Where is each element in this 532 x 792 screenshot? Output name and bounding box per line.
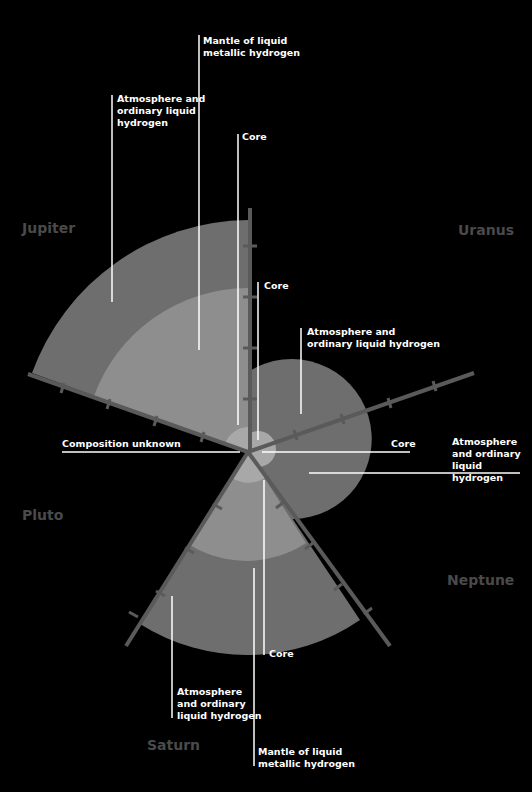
jupiter-sector xyxy=(32,220,248,452)
planet-pluto: Pluto xyxy=(22,507,63,523)
label-saturn-atmosphere: Atmosphere and ordinary liquid hydrogen xyxy=(177,686,261,722)
label-jupiter-core: Core xyxy=(242,131,267,143)
label-uranus-atmosphere: Atmosphere and ordinary liquid hydrogen xyxy=(307,326,440,350)
label-neptune-atmosphere: Atmosphere and ordinary liquid hydrogen xyxy=(452,436,532,484)
planet-neptune: Neptune xyxy=(447,572,514,588)
label-uranus-core: Core xyxy=(264,280,289,292)
label-pluto-composition: Composition unknown xyxy=(62,438,181,450)
label-jupiter-mantle: Mantle of liquid metallic hydrogen xyxy=(203,35,300,59)
planet-interiors-diagram xyxy=(0,0,532,792)
planet-saturn: Saturn xyxy=(147,737,200,753)
label-saturn-core: Core xyxy=(269,648,294,660)
planet-jupiter: Jupiter xyxy=(22,220,75,236)
label-saturn-mantle: Mantle of liquid metallic hydrogen xyxy=(258,746,355,770)
planet-uranus: Uranus xyxy=(458,222,514,238)
label-jupiter-atmosphere: Atmosphere and ordinary liquid hydrogen xyxy=(117,93,205,129)
label-neptune-core: Core xyxy=(391,438,416,450)
